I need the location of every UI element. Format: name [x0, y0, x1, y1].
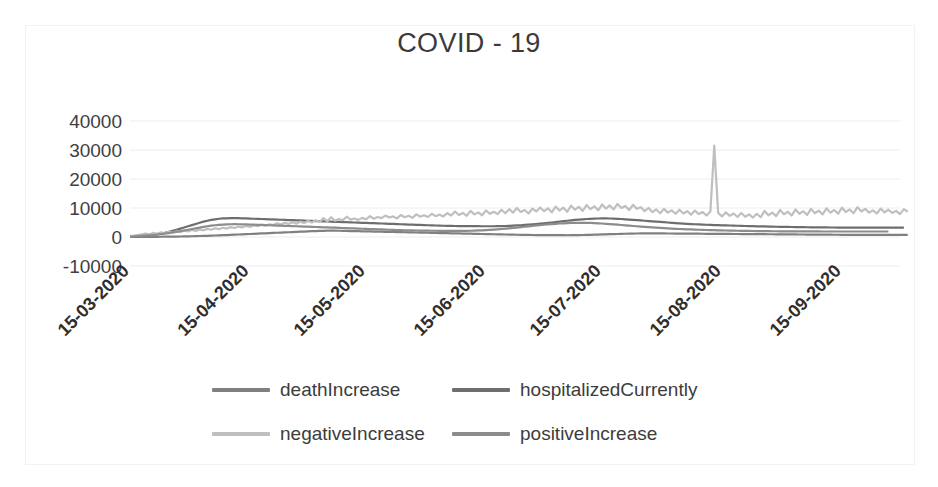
y-tick-label: 20000 — [69, 169, 122, 190]
x-tick-label: 15-08-2020 — [646, 261, 725, 340]
legend-row: deathIncreasehospitalizedCurrently — [150, 368, 790, 412]
y-tick-label: 0 — [111, 227, 122, 248]
x-tick-label: 15-09-2020 — [766, 261, 845, 340]
legend-row: negativeIncreasepositiveIncrease — [150, 412, 790, 456]
legend-item-positiveIncrease[interactable]: positiveIncrease — [440, 423, 780, 445]
y-tick-label: 10000 — [69, 198, 122, 219]
x-tick-label: 15-04-2020 — [173, 261, 252, 340]
x-axis-tick-labels: 15-03-202015-04-202015-05-202015-06-2020… — [54, 261, 845, 340]
series-lines — [130, 146, 908, 237]
legend-label: hospitalizedCurrently — [520, 379, 697, 401]
chart-screenshot: COVID - 19 400003000020000100000-10000 1… — [0, 0, 938, 487]
legend-swatch-positiveIncrease — [452, 432, 510, 436]
legend-item-hospitalizedCurrently[interactable]: hospitalizedCurrently — [440, 379, 780, 401]
legend-label: positiveIncrease — [520, 423, 657, 445]
legend-label: negativeIncrease — [280, 423, 425, 445]
legend-swatch-hospitalizedCurrently — [452, 388, 510, 392]
legend-swatch-deathIncrease — [212, 388, 270, 392]
x-tick-label: 15-07-2020 — [526, 261, 605, 340]
legend-label: deathIncrease — [280, 379, 400, 401]
gridlines — [130, 121, 900, 266]
chart-legend: deathIncreasehospitalizedCurrentlynegati… — [150, 368, 790, 456]
y-tick-label: 30000 — [69, 140, 122, 161]
legend-item-negativeIncrease[interactable]: negativeIncrease — [150, 423, 440, 445]
y-tick-label: 40000 — [69, 111, 122, 132]
series-line-negativeIncrease — [130, 146, 908, 236]
y-axis-tick-labels: 400003000020000100000-10000 — [63, 111, 122, 277]
legend-item-deathIncrease[interactable]: deathIncrease — [150, 379, 440, 401]
x-tick-label: 15-05-2020 — [290, 261, 369, 340]
legend-swatch-negativeIncrease — [212, 432, 270, 436]
x-tick-label: 15-06-2020 — [410, 261, 489, 340]
